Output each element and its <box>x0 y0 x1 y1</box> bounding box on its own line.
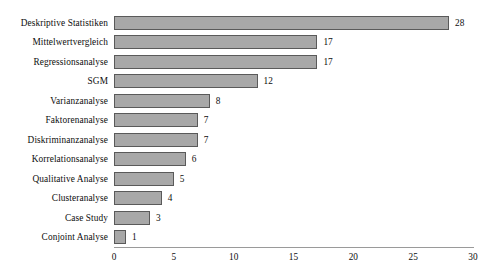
bar-row: SGM12 <box>0 72 485 92</box>
bar-value-label: 12 <box>264 76 273 87</box>
x-tick-label: 5 <box>162 252 186 263</box>
bar <box>114 74 258 88</box>
bar <box>114 230 126 244</box>
x-tick-label: 30 <box>461 252 485 263</box>
bar <box>114 35 317 49</box>
category-label: Case Study <box>0 212 108 223</box>
bar <box>114 133 198 147</box>
bar <box>114 211 150 225</box>
bar-value-label: 5 <box>180 173 185 184</box>
category-label: Mittelwertvergleich <box>0 37 108 48</box>
bar <box>114 113 198 127</box>
category-label: Diskriminanzanalyse <box>0 134 108 145</box>
bar-row: Regressionsanalyse17 <box>0 52 485 72</box>
x-tick-label: 20 <box>341 252 365 263</box>
bar-chart: Deskriptive Statistiken28Mittelwertvergl… <box>0 0 485 278</box>
bar-value-label: 7 <box>204 115 209 126</box>
bar-row: Deskriptive Statistiken28 <box>0 13 485 33</box>
bar-value-label: 6 <box>192 154 197 165</box>
bar-value-label: 28 <box>455 17 464 28</box>
category-label: Qualitative Analyse <box>0 173 108 184</box>
bar <box>114 191 162 205</box>
bar-value-label: 17 <box>323 56 332 67</box>
x-tick-label: 0 <box>102 252 126 263</box>
bar-row: Korrelationsanalyse6 <box>0 150 485 170</box>
bar-value-label: 1 <box>132 232 137 243</box>
x-tick-label: 25 <box>401 252 425 263</box>
plot-area: Deskriptive Statistiken28Mittelwertvergl… <box>0 0 485 278</box>
x-axis-line <box>114 247 474 248</box>
bar-row: Conjoint Analyse1 <box>0 228 485 248</box>
category-label: Clusteranalyse <box>0 193 108 204</box>
x-tick-label: 15 <box>282 252 306 263</box>
bar <box>114 94 210 108</box>
category-label: Faktorenanalyse <box>0 115 108 126</box>
category-label: SGM <box>0 76 108 87</box>
category-label: Conjoint Analyse <box>0 232 108 243</box>
x-tick-label: 10 <box>222 252 246 263</box>
bar <box>114 152 186 166</box>
category-label: Korrelationsanalyse <box>0 154 108 165</box>
bar <box>114 55 317 69</box>
category-label: Regressionsanalyse <box>0 56 108 67</box>
bar-value-label: 7 <box>204 134 209 145</box>
bar-row: Case Study3 <box>0 208 485 228</box>
category-label: Varianzanalyse <box>0 95 108 106</box>
bar <box>114 16 449 30</box>
bar-row: Diskriminanzanalyse7 <box>0 130 485 150</box>
bar-value-label: 17 <box>323 37 332 48</box>
bar-value-label: 4 <box>168 193 173 204</box>
bar-value-label: 3 <box>156 212 161 223</box>
category-label: Deskriptive Statistiken <box>0 17 108 28</box>
bar-row: Mittelwertvergleich17 <box>0 33 485 53</box>
bar-row: Clusteranalyse4 <box>0 189 485 209</box>
bar-row: Varianzanalyse8 <box>0 91 485 111</box>
bar-value-label: 8 <box>216 95 221 106</box>
bar-row: Qualitative Analyse5 <box>0 169 485 189</box>
bar-row: Faktorenanalyse7 <box>0 111 485 131</box>
bar <box>114 172 174 186</box>
